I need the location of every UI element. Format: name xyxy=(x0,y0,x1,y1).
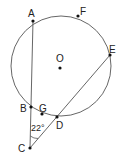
label-f: F xyxy=(80,6,86,17)
geometry-diagram: A F E O B G D C 22° xyxy=(0,0,122,155)
point-d xyxy=(55,115,58,118)
circle-o xyxy=(11,16,111,116)
angle-label: 22° xyxy=(31,123,45,133)
secant-ce xyxy=(30,55,110,148)
point-b xyxy=(29,105,32,108)
label-a: A xyxy=(28,8,35,19)
label-b: B xyxy=(20,103,27,114)
label-o: O xyxy=(56,53,64,64)
label-d: D xyxy=(56,120,63,131)
point-a xyxy=(31,19,34,22)
label-g: G xyxy=(39,103,47,114)
label-c: C xyxy=(18,143,25,154)
label-e: E xyxy=(109,44,116,55)
point-c xyxy=(28,146,31,149)
point-o xyxy=(58,66,61,69)
angle-arc xyxy=(30,136,38,139)
